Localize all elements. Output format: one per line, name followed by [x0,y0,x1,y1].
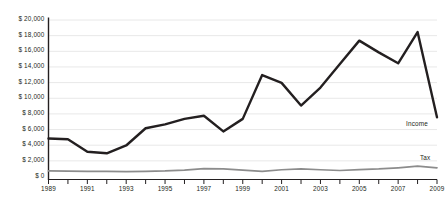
x-axis-label: 2005 [339,186,379,192]
series-line-tax [49,166,438,171]
x-axis-label: 1993 [106,186,146,192]
y-axis-label: $ 20,000 [18,16,44,22]
y-axis-label: $ 2,000 [22,157,44,163]
x-axis-label: 1999 [223,186,263,192]
chart-plot-area [0,0,446,204]
y-axis-label: $ 16,000 [18,47,44,53]
x-axis-tick-marks [49,180,438,185]
series-label-income: Income [406,121,428,127]
data-series-lines [49,32,438,172]
x-axis-label: 2009 [417,186,446,192]
x-axis-label: 1995 [145,186,185,192]
y-axis-label: $ 18,000 [18,32,44,38]
y-axis-label: $ 8,000 [22,110,44,116]
y-axis-label: $ 14,000 [18,63,44,69]
y-axis-label: $ 4,000 [22,141,44,147]
income-tax-line-chart: $ 20,000$ 18,000$ 16,000$ 14,000$ 12,000… [0,0,446,204]
y-axis-label: $ 12,000 [18,79,44,85]
x-axis-label: 1991 [67,186,107,192]
gridlines [49,20,438,161]
series-label-tax: Tax [420,155,430,161]
x-axis-label: 2007 [378,186,418,192]
y-axis-label: $ 0 [35,173,44,179]
y-axis-label: $ 6,000 [22,126,44,132]
x-axis-label: 2003 [300,186,340,192]
y-axis-label: $ 10,000 [18,94,44,100]
series-line-income [49,32,438,153]
x-axis-label: 1989 [29,186,69,192]
x-axis-label: 2001 [262,186,302,192]
x-axis-label: 1997 [184,186,224,192]
